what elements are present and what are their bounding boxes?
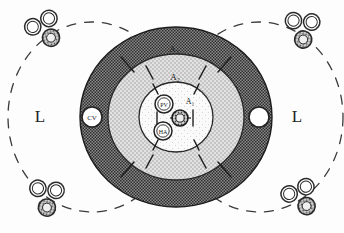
central-vein-left-label: CV xyxy=(87,114,97,122)
lobule-left-label: L xyxy=(35,107,45,126)
bile-duct-lumen xyxy=(176,114,184,122)
figure-canvas: CV PV HA A₃ A₂ A₁ xyxy=(0,0,344,233)
portal-vein-label: PV xyxy=(160,102,168,108)
hepatic-artery-label: HA xyxy=(159,129,168,135)
central-vein-right xyxy=(249,107,269,127)
lobule-right-label: L xyxy=(292,107,302,126)
zone-3-label: A₃ xyxy=(169,44,179,54)
zone-1-label: A₁ xyxy=(186,97,195,106)
zone-2-label: A₂ xyxy=(170,72,180,82)
acinus-diagram: CV PV HA A₃ A₂ A₁ xyxy=(0,0,344,233)
